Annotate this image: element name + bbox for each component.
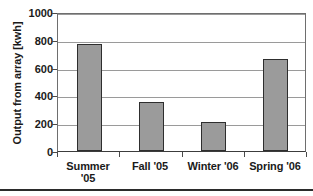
x-axis-tick-mark [119, 152, 120, 157]
y-axis-tick-label: 1000 [13, 8, 53, 19]
gridline [58, 14, 305, 15]
figure-bottom-rule [0, 189, 313, 191]
y-axis-tick-label: 600 [13, 64, 53, 75]
y-axis-tick-label: 0 [13, 147, 53, 158]
x-axis-tick-mark [182, 152, 183, 157]
x-axis-category-label: Summer'05 [57, 160, 119, 184]
bar [263, 59, 288, 151]
y-axis-tick-label: 800 [13, 36, 53, 47]
x-axis-category-label: Spring '06 [244, 160, 306, 172]
x-axis-category-label-line: Summer [57, 160, 119, 172]
y-axis-title: Output from array [kwh] [11, 8, 25, 158]
y-axis-tick-label: 200 [13, 119, 53, 130]
bar-chart-figure: Output from array [kwh] 0200400600800100… [0, 0, 313, 196]
x-axis-category-label-line: Fall '05 [119, 160, 181, 172]
x-axis-category-label: Fall '05 [119, 160, 181, 172]
x-axis-category-label-line: Spring '06 [244, 160, 306, 172]
x-axis-category-label: Winter '06 [182, 160, 244, 172]
plot-area [57, 13, 306, 152]
x-axis-tick-mark [306, 152, 307, 157]
bar [139, 102, 164, 151]
gridline [58, 42, 305, 43]
x-axis-category-label-line: Winter '06 [182, 160, 244, 172]
x-axis-tick-mark [244, 152, 245, 157]
bar [77, 44, 102, 151]
x-axis-category-label-line: '05 [57, 172, 119, 184]
x-axis-tick-mark [57, 152, 58, 157]
bar [201, 122, 226, 151]
y-axis-tick-label: 400 [13, 91, 53, 102]
